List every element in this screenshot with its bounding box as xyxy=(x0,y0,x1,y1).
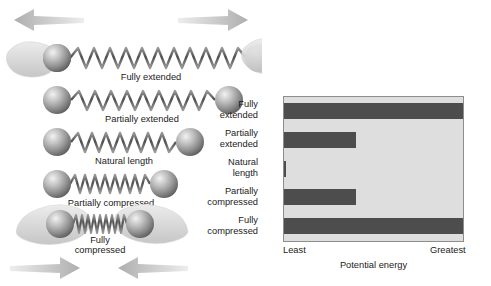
spring-potential-energy-figure: Fully extended Partially extended Natura… xyxy=(0,0,491,286)
bar-natural-length xyxy=(284,161,286,177)
row-label-fully-compressed-line2: compressed xyxy=(75,245,126,255)
row-label-natural-length: Natural length xyxy=(95,156,153,166)
row-label-fully-extended: Fully extended xyxy=(121,72,181,82)
category-label-fully-compressed: Fully compressed xyxy=(198,215,258,236)
bar-partially-extended xyxy=(284,132,356,148)
bar-partially-compressed xyxy=(284,189,356,205)
arrow-right-bottom-icon xyxy=(10,257,80,279)
bar-track-2 xyxy=(284,155,463,183)
axis-label-greatest: Greatest xyxy=(430,245,466,255)
category-label-partially-extended: Partially extended xyxy=(198,128,258,149)
bar-track-3 xyxy=(284,183,463,211)
spring-row-partially-compressed xyxy=(43,170,178,198)
bar-track-1 xyxy=(284,126,463,154)
spring-row-natural-length xyxy=(43,128,204,156)
bar-fully-compressed xyxy=(284,218,463,234)
row-label-fully-compressed-line1: Fully xyxy=(90,235,110,245)
row-label-partially-extended: Partially extended xyxy=(105,114,179,124)
bar-track-4 xyxy=(284,212,463,240)
axis-title-potential-energy: Potential energy xyxy=(283,260,464,270)
category-label-partially-compressed: Partially compressed xyxy=(198,186,258,207)
bar-fully-extended xyxy=(284,103,463,119)
chart-plot-area xyxy=(283,96,464,242)
arrow-left-bottom-icon xyxy=(118,257,188,279)
arrow-right-icon xyxy=(178,9,248,31)
axis-label-least: Least xyxy=(283,245,306,255)
arrow-left-icon xyxy=(14,9,84,31)
category-label-natural-length: Natural length xyxy=(198,157,258,178)
potential-energy-bar-chart: Fully extended Partially extended Natura… xyxy=(262,88,491,286)
bar-track-0 xyxy=(284,97,463,125)
category-label-fully-extended: Fully extended xyxy=(198,99,258,120)
